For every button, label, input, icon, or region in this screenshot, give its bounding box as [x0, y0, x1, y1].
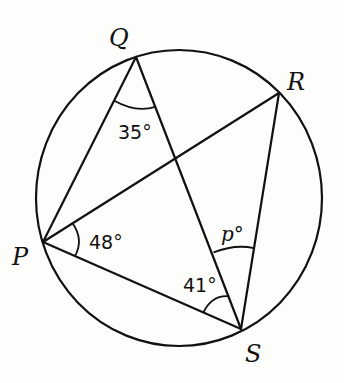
- angle-arc-s-41: [203, 296, 228, 312]
- angle-arc-p: [73, 223, 79, 256]
- angle-label-35: 35°: [118, 121, 152, 143]
- angle-label-p: p°: [221, 222, 244, 246]
- angle-arc-q: [114, 101, 155, 109]
- angle-label-41: 41°: [183, 274, 217, 296]
- vertex-label-p: P: [11, 243, 29, 271]
- segment-pr: [43, 93, 279, 242]
- circle-diagram: Q R P S 35° 48° 41° p°: [0, 0, 344, 383]
- vertex-label-q: Q: [109, 24, 129, 52]
- segment-qp: [43, 57, 136, 242]
- vertex-label-r: R: [286, 68, 305, 96]
- angle-arc-s-p: [214, 247, 254, 253]
- vertex-label-s: S: [245, 340, 261, 368]
- angle-label-48: 48°: [89, 231, 123, 253]
- segment-rs: [241, 93, 279, 329]
